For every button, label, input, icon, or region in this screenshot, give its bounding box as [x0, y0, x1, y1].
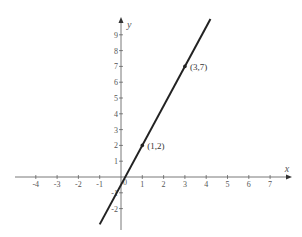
data-point [183, 65, 187, 69]
x-tick-label: 4 [204, 180, 208, 189]
y-tick-label: -2 [111, 205, 118, 214]
y-tick-label: 4 [114, 110, 118, 119]
y-tick-label: 8 [114, 47, 118, 56]
y-tick-label: 3 [114, 126, 118, 135]
tick-marks: -4-3-2-11234567-2-11234567890 [32, 31, 272, 214]
y-axis-label: y [126, 19, 132, 30]
x-axis-arrow-icon [286, 175, 292, 180]
y-tick-label: 1 [114, 157, 118, 166]
x-tick-label: 3 [183, 180, 187, 189]
x-tick-label: -3 [54, 180, 61, 189]
data-point [141, 144, 145, 148]
y-tick-label: 6 [114, 78, 118, 87]
x-tick-label: 5 [226, 180, 230, 189]
y-tick-label: 5 [114, 94, 118, 103]
y-tick-label: 9 [114, 31, 118, 40]
x-tick-label: -1 [96, 180, 103, 189]
labeled-points: (1,2)(3,7) [141, 62, 208, 151]
point-label: (3,7) [190, 62, 207, 72]
x-tick-label: 2 [162, 180, 166, 189]
x-tick-label: 1 [140, 180, 144, 189]
y-axis-arrow-icon [119, 17, 124, 23]
point-label: (1,2) [147, 141, 164, 151]
y-tick-label: 7 [114, 62, 118, 71]
coordinate-plot: xy -4-3-2-11234567-2-11234567890 (1,2)(3… [0, 0, 302, 237]
x-tick-label: 6 [247, 180, 251, 189]
x-axis-label: x [284, 163, 290, 174]
x-tick-label: -4 [32, 180, 39, 189]
x-tick-label: -2 [75, 180, 82, 189]
y-tick-label: 2 [114, 141, 118, 150]
x-tick-label: 7 [268, 180, 272, 189]
